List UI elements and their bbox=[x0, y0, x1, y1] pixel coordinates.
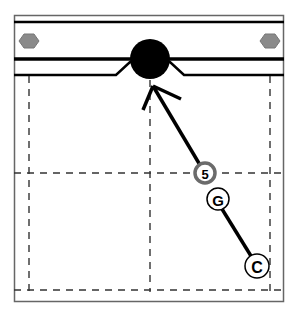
player-g[interactable]: G bbox=[207, 188, 229, 210]
player-label: G bbox=[212, 192, 224, 209]
player-5[interactable]: 5 bbox=[195, 163, 215, 183]
puck-icon bbox=[130, 39, 170, 79]
player-link-line bbox=[222, 209, 251, 256]
play-diagram: 5 G C bbox=[0, 0, 296, 311]
player-c[interactable]: C bbox=[245, 254, 269, 278]
dashed-grid bbox=[14, 76, 284, 292]
pass-arrow bbox=[143, 86, 200, 165]
player-label: C bbox=[251, 259, 263, 276]
player-label: 5 bbox=[201, 167, 208, 182]
hexagon-icon bbox=[260, 34, 280, 48]
hexagon-icon bbox=[19, 34, 39, 48]
